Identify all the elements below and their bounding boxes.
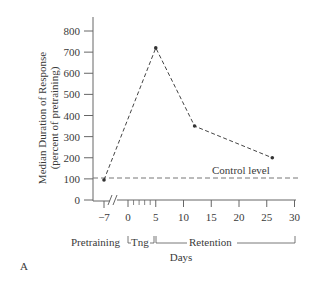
y-tick-label: 600 <box>64 67 81 79</box>
data-line <box>104 48 272 180</box>
x-axis-label: Days <box>170 251 193 263</box>
x-tick-label: 25 <box>261 211 273 223</box>
y-tick-label: 400 <box>64 110 81 122</box>
phase-tng-label: Tng <box>131 236 149 248</box>
x-tick-label: 15 <box>206 211 218 223</box>
control-level-label: Control level <box>212 164 270 176</box>
y-tick-label: 100 <box>64 173 81 185</box>
y-tick-label: 200 <box>64 152 81 164</box>
axis-break-mark-2 <box>113 195 117 205</box>
y-tick-label: 0 <box>75 194 81 206</box>
phase-retention-label: Retention <box>189 236 232 248</box>
axis-break-mark-1 <box>108 195 112 205</box>
x-tick-label: 20 <box>234 211 246 223</box>
y-tick-label: 300 <box>64 131 81 143</box>
panel-label: A <box>20 260 28 272</box>
x-tick-label: 5 <box>153 211 159 223</box>
y-tick-label: 700 <box>64 46 81 58</box>
chart: Median Duration of Response (percent of … <box>0 0 318 282</box>
x-ticks: −7051015202530 <box>98 200 300 223</box>
x-tick-label: 30 <box>289 211 301 223</box>
y-tick-label: 800 <box>64 25 81 37</box>
data-point <box>271 156 275 160</box>
x-tick-label: 10 <box>178 211 190 223</box>
y-tick-label: 500 <box>64 88 81 100</box>
y-axis-label-sub: (percent of pretraining) <box>48 66 61 169</box>
phase-pretraining-label: Pretraining <box>71 236 120 248</box>
x-tick-label: 0 <box>125 211 131 223</box>
data-point <box>102 178 106 182</box>
y-axis-label: Median Duration of Response <box>36 52 48 184</box>
data-point <box>193 124 197 128</box>
data-point <box>154 46 158 50</box>
x-tick-label: −7 <box>98 211 110 223</box>
y-ticks: 0100200300400500600700800 <box>64 25 94 206</box>
